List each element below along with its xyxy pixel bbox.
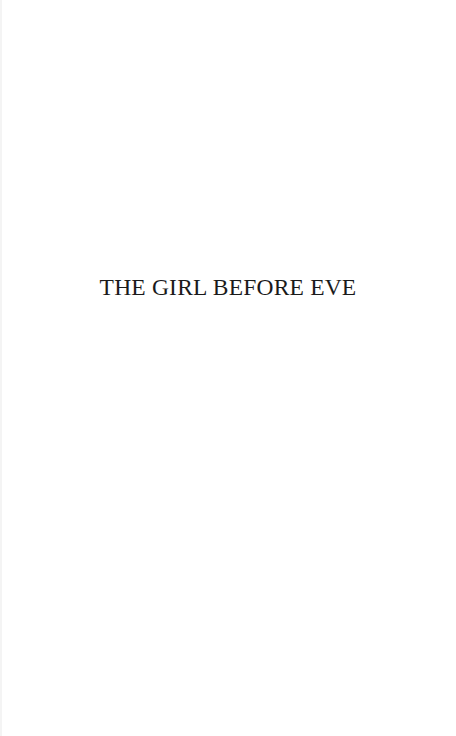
book-title: THE GIRL BEFORE EVE [0, 272, 456, 302]
book-half-title-page: THE GIRL BEFORE EVE [0, 0, 456, 736]
